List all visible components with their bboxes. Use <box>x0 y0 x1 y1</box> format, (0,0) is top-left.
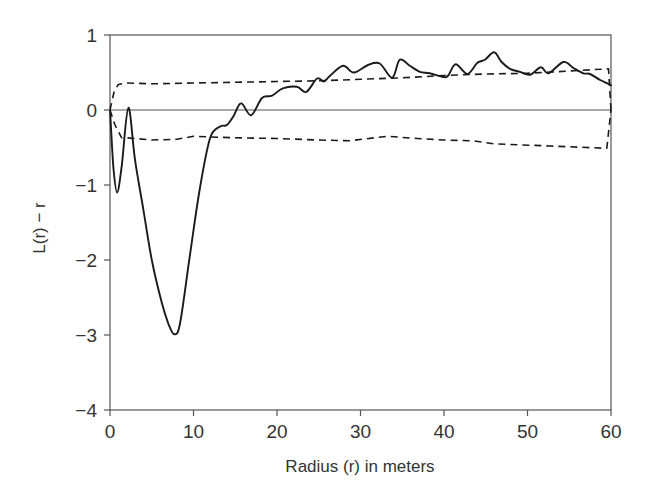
chart-background <box>0 0 650 497</box>
x-tick-label: 60 <box>600 421 621 442</box>
y-axis-label: L(r) − r <box>30 202 49 254</box>
x-tick-label: 10 <box>183 421 204 442</box>
x-tick-label: 0 <box>105 421 116 442</box>
y-tick-label: −2 <box>75 250 97 271</box>
y-tick-label: −3 <box>75 325 97 346</box>
y-tick-label: −1 <box>75 175 97 196</box>
y-tick-label: 0 <box>86 100 97 121</box>
x-tick-label: 40 <box>433 421 454 442</box>
x-tick-label: 30 <box>350 421 371 442</box>
chart: 0102030405060 10−1−2−3−4 Radius (r) in m… <box>0 0 650 497</box>
y-tick-label: −4 <box>75 400 97 421</box>
x-tick-label: 50 <box>517 421 538 442</box>
y-tick-label: 1 <box>86 25 97 46</box>
x-axis-label: Radius (r) in meters <box>285 457 434 476</box>
x-tick-label: 20 <box>266 421 287 442</box>
